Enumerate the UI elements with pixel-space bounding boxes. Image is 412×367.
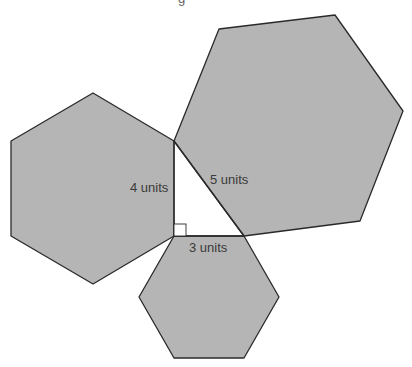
right-angle-marker <box>174 224 186 236</box>
large-hexagon <box>174 15 403 236</box>
label-hypotenuse: 5 units <box>210 172 249 187</box>
label-left-leg: 4 units <box>130 180 169 195</box>
hexagon-diagram: g 4 units 5 units 3 units <box>0 0 412 367</box>
label-bottom-leg: 3 units <box>189 240 228 255</box>
cropped-heading-fragment: g <box>178 0 185 6</box>
